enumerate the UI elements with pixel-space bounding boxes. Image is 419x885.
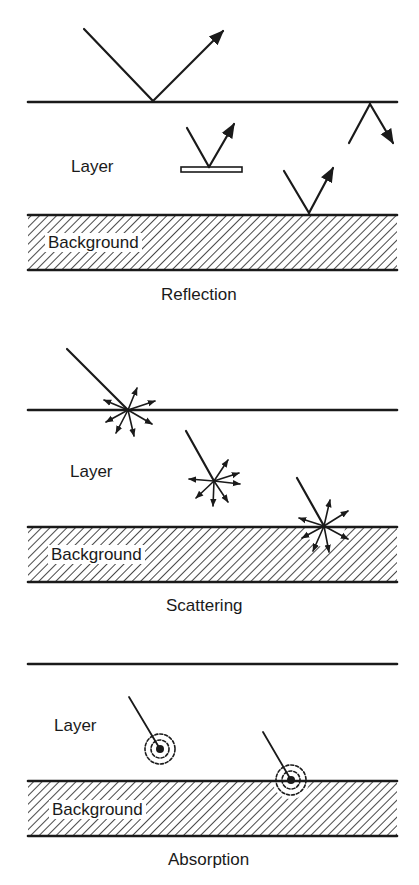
caption-scattering: Scattering <box>166 597 243 614</box>
layer-label-reflection: Layer <box>71 158 114 175</box>
caption-absorption: Absorption <box>168 851 249 868</box>
layer-label-absorption: Layer <box>54 717 97 734</box>
layer-label-scattering: Layer <box>70 463 113 480</box>
background-label-scattering: Background <box>48 545 145 564</box>
background-label-reflection: Background <box>45 233 142 252</box>
optical-interaction-diagram <box>0 0 419 885</box>
caption-reflection: Reflection <box>161 286 237 303</box>
background-label-absorption: Background <box>49 800 146 819</box>
